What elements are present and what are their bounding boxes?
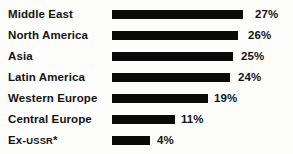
- chart-rows: Middle East27%North America26%Asia25%Lat…: [0, 0, 293, 154]
- bar: [112, 31, 238, 40]
- chart-row: Asia25%: [0, 46, 293, 67]
- chart-row: Central Europe11%: [0, 109, 293, 130]
- bar-value-label: 24%: [238, 67, 261, 88]
- bar-value-label: 4%: [157, 130, 174, 151]
- bar: [112, 115, 175, 124]
- bar: [112, 94, 208, 103]
- bar: [112, 73, 230, 82]
- bar-value-label: 27%: [255, 4, 278, 25]
- footnote-marker: *: [53, 134, 58, 146]
- chart-row: North America26%: [0, 25, 293, 46]
- bar: [112, 10, 243, 19]
- category-label: Ex-USSR*: [8, 130, 110, 151]
- category-label: North America: [8, 25, 110, 46]
- category-label: Middle East: [8, 4, 110, 25]
- bar-chart: Middle East27%North America26%Asia25%Lat…: [0, 0, 293, 154]
- bar: [112, 136, 150, 145]
- bar-value-label: 26%: [248, 25, 271, 46]
- chart-row: Latin America24%: [0, 67, 293, 88]
- bar-value-label: 11%: [181, 109, 204, 130]
- category-label-smallcaps: USSR: [26, 135, 53, 146]
- chart-row: Middle East27%: [0, 4, 293, 25]
- chart-row: Ex-USSR*4%: [0, 130, 293, 151]
- category-label: Latin America: [8, 67, 110, 88]
- category-label-main: Ex-: [8, 134, 26, 146]
- category-label: Asia: [8, 46, 110, 67]
- bar-value-label: 19%: [214, 88, 237, 109]
- category-label: Western Europe: [8, 88, 110, 109]
- chart-row: Western Europe19%: [0, 88, 293, 109]
- bar-value-label: 25%: [241, 46, 264, 67]
- bar: [112, 52, 233, 61]
- category-label: Central Europe: [8, 109, 110, 130]
